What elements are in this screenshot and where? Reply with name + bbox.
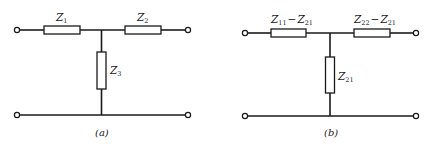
caption-a: (a) [95,127,109,138]
terminal-a-in-top [14,27,19,32]
impedance-z22-minus-z21 [354,29,390,37]
terminal-b-in-top [242,30,247,35]
caption-b: (b) [324,127,338,138]
terminal-b-in-bottom [242,113,247,118]
label-z21: Z21 [337,70,354,84]
terminal-b-out-bottom [413,113,418,118]
label-z22-minus-z21: Z22−Z21 [353,13,396,27]
t-network-a: Z1 Z2 Z3 (a) [14,11,190,138]
terminal-a-out-bottom [185,112,190,117]
label-z11-minus-z21: Z11−Z21 [270,13,313,27]
terminal-a-out-top [185,27,190,32]
label-z3: Z3 [109,64,121,78]
impedance-z1 [44,26,80,34]
label-z1: Z1 [55,11,67,25]
terminal-b-out-top [413,30,418,35]
t-network-b: Z11−Z21 Z22−Z21 Z21 (b) [242,13,418,138]
label-z2: Z2 [136,11,148,25]
impedance-z11-minus-z21 [271,29,306,37]
terminal-a-in-bottom [14,112,19,117]
impedance-z2 [125,26,161,34]
impedance-z3 [97,52,106,89]
impedance-z21 [326,57,335,93]
